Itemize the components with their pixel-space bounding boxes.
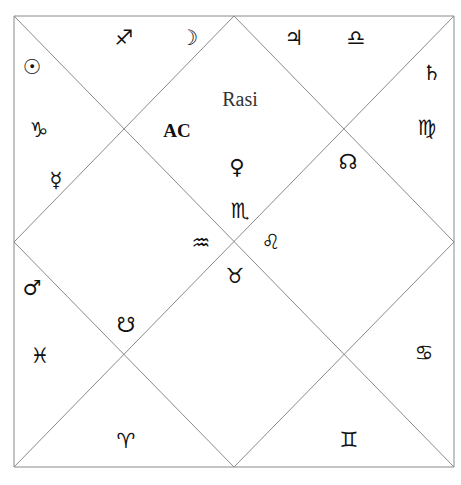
sun-icon: ☉ (23, 57, 42, 78)
cancer-icon: ♋ (415, 343, 434, 364)
aries-icon: ♈ (117, 431, 136, 452)
mercury-icon: ☿ (50, 170, 63, 191)
taurus-icon: ♉ (226, 266, 245, 287)
ascendant-label: AC (163, 121, 190, 140)
chart-title: Rasi (222, 89, 258, 109)
aquarius-icon: ♒ (192, 233, 211, 254)
moon-icon: ☽ (180, 28, 199, 49)
gemini-icon: ♊ (340, 430, 359, 451)
jupiter-icon: ♃ (285, 28, 304, 49)
libra-icon: ♎ (347, 28, 366, 49)
sagittarius-icon: ♐ (115, 28, 134, 49)
rasi-chart-grid (0, 0, 461, 485)
north-node-icon: ☊ (339, 152, 358, 173)
leo-icon: ♌ (262, 232, 281, 253)
south-node-icon: ☋ (117, 315, 136, 336)
mars-icon: ♂ (23, 278, 42, 299)
scorpio-icon: ♏ (231, 201, 250, 222)
pisces-icon: ♓ (31, 346, 50, 367)
virgo-icon: ♍ (418, 118, 437, 139)
capricorn-icon: ♑ (30, 120, 49, 141)
venus-icon: ♀ (229, 157, 244, 178)
saturn-icon: ♄ (423, 63, 442, 84)
